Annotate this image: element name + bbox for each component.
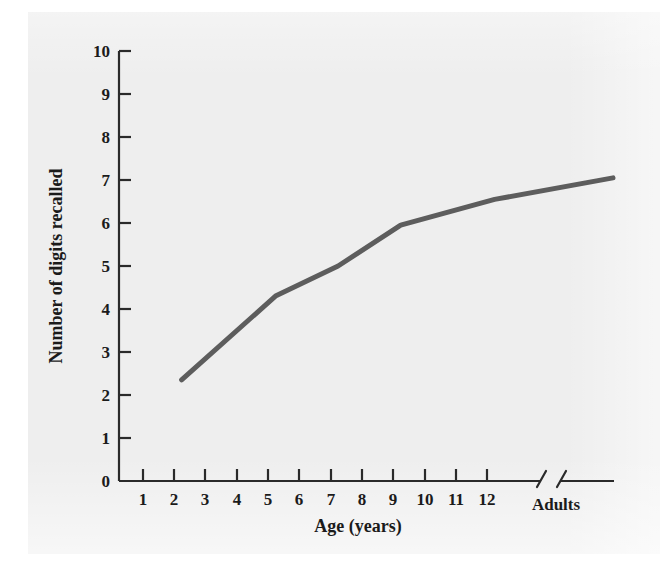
y-tick-label-6: 6 xyxy=(102,214,111,233)
x-tick-label-4: 4 xyxy=(233,490,242,509)
x-tick-label-1: 1 xyxy=(139,490,148,509)
y-tick-label-8: 8 xyxy=(102,128,111,147)
x-tick-label-5: 5 xyxy=(264,490,273,509)
line-chart: 10 9 8 7 6 5 4 3 2 1 0 Number of digits … xyxy=(0,0,668,566)
x-tick-label-6: 6 xyxy=(295,490,304,509)
y-tick-label-4: 4 xyxy=(102,300,111,319)
figure-page: 10 9 8 7 6 5 4 3 2 1 0 Number of digits … xyxy=(0,0,668,566)
y-tick-label-9: 9 xyxy=(102,85,111,104)
x-tick-label-11: 11 xyxy=(448,490,464,509)
y-axis-title: Number of digits recalled xyxy=(46,169,66,364)
y-tick-label-1: 1 xyxy=(102,429,111,448)
x-tick-label-3: 3 xyxy=(201,490,210,509)
y-tick-label-7: 7 xyxy=(102,171,111,190)
y-tick-label-10: 10 xyxy=(93,42,110,61)
x-tick-label-12: 12 xyxy=(479,490,496,509)
y-tick-label-5: 5 xyxy=(102,257,111,276)
x-axis: 1 2 3 4 5 6 7 8 9 10 11 12 Adults Age (y… xyxy=(119,469,614,537)
y-tick-label-3: 3 xyxy=(102,343,111,362)
y-axis: 10 9 8 7 6 5 4 3 2 1 0 Number of digits … xyxy=(46,42,131,491)
x-axis-title: Age (years) xyxy=(314,516,401,537)
y-tick-label-2: 2 xyxy=(102,386,111,405)
y-tick-label-0: 0 xyxy=(102,472,111,491)
x-tick-label-7: 7 xyxy=(327,490,336,509)
x-tick-label-10: 10 xyxy=(417,490,434,509)
x-tick-label-adults: Adults xyxy=(532,495,581,514)
data-series-line xyxy=(182,178,613,380)
axis-break-icon xyxy=(537,471,566,487)
x-tick-label-2: 2 xyxy=(170,490,179,509)
x-tick-label-8: 8 xyxy=(358,490,367,509)
x-tick-label-9: 9 xyxy=(389,490,398,509)
